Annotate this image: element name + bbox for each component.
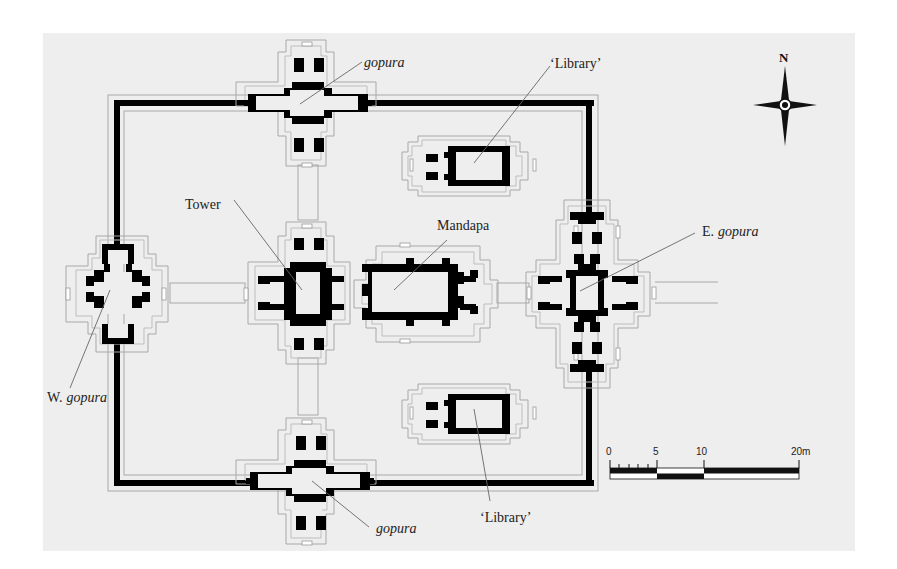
label-north-library: ‘Library’ [550, 56, 601, 71]
label-west-gopura: W.gopura [47, 390, 107, 405]
label-south-library: ‘Library’ [480, 510, 531, 525]
label-north-gopura: gopura [364, 55, 404, 70]
scale-tick-5: 5 [653, 446, 659, 457]
scale-tick-10: 10 [696, 446, 708, 457]
west-gopura-suffix: gopura [66, 390, 106, 405]
east-gopura-suffix: gopura [718, 224, 758, 239]
label-tower: Tower [185, 197, 221, 212]
scale-tick-20m: 20m [791, 446, 810, 457]
label-south-gopura: gopura [376, 521, 416, 536]
compass-north-label: N [779, 50, 789, 65]
label-mandapa: Mandapa [437, 218, 490, 233]
east-gopura-prefix: E. [702, 224, 714, 239]
temple-floor-plan: gopura ‘Library’ Tower Mandapa E.gopura … [0, 0, 897, 569]
label-east-gopura: E.gopura [702, 224, 759, 239]
west-gopura-prefix: W. [47, 390, 62, 405]
scale-tick-0: 0 [606, 446, 612, 457]
